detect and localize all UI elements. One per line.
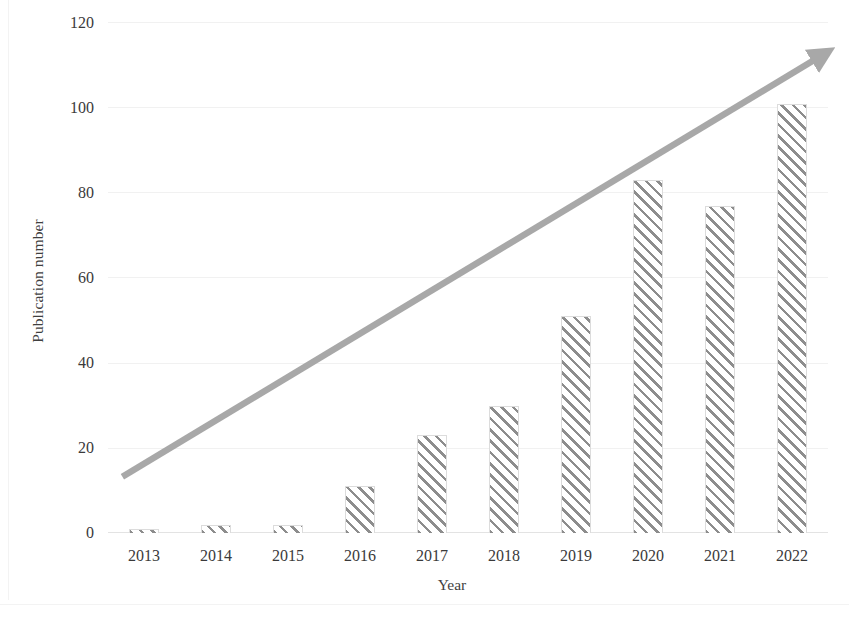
bar-2013 [129,529,159,533]
page-edge-artifact [0,604,849,605]
y-tick-label-20: 20 [42,440,94,456]
y-tick-label-40: 40 [42,355,94,371]
bar-2018 [489,406,519,534]
y-tick-label-80: 80 [42,185,94,201]
bar-2017 [417,435,447,533]
bar-2022 [777,104,807,533]
bar-2019 [561,316,591,533]
publication-number-bar-chart: Publication number Year 120 100 80 60 40… [0,0,849,621]
y-tick-label-60: 60 [42,270,94,286]
bar-2020 [633,180,663,533]
bar-2021 [705,206,735,533]
x-tick-label-2013: 2013 [108,548,180,564]
y-tick-label-0: 0 [42,525,94,541]
x-axis-label-wrap: Year [0,576,849,594]
bar-2014 [201,525,231,534]
x-tick-label-2022: 2022 [756,548,828,564]
y-tick-label-120: 120 [42,15,94,31]
gridline-100 [108,107,828,108]
bar-2015 [273,525,303,534]
x-axis-label: Year [438,576,467,593]
gridline-120 [108,22,828,23]
x-tick-label-2018: 2018 [468,548,540,564]
x-tick-label-2014: 2014 [180,548,252,564]
x-tick-label-2021: 2021 [684,548,756,564]
gridline-80 [108,192,828,193]
y-tick-label-100: 100 [42,100,94,116]
x-tick-label-2017: 2017 [396,548,468,564]
x-tick-label-2020: 2020 [612,548,684,564]
x-tick-label-2015: 2015 [252,548,324,564]
x-tick-label-2019: 2019 [540,548,612,564]
bar-2016 [345,486,375,533]
plot-area [108,22,828,533]
x-tick-label-2016: 2016 [324,548,396,564]
page-edge-artifact-left [8,0,9,600]
